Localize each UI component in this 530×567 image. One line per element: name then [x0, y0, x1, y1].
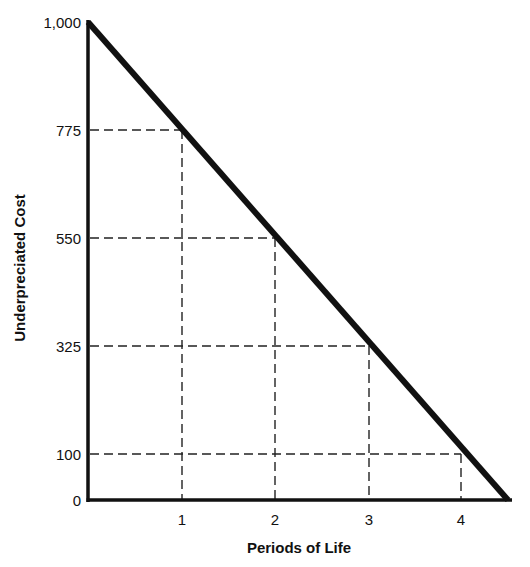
x-axis-label: Periods of Life: [247, 539, 351, 556]
y-tick-label: 550: [56, 230, 81, 247]
y-tick-label: 325: [56, 338, 81, 355]
x-tick-label: 4: [457, 511, 465, 528]
y-axis-label: Underpreciated Cost: [11, 194, 28, 342]
x-tick-label: 2: [271, 511, 279, 528]
y-tick-label: 0: [73, 492, 81, 509]
x-tick-label: 3: [365, 511, 373, 528]
depreciation-line: [88, 22, 508, 500]
y-tick-label: 1,000: [43, 14, 81, 31]
y-tick-label: 100: [56, 446, 81, 463]
chart: 1,000 775 550 325 100 0 1 2 3 4 Periods …: [0, 0, 530, 567]
x-tick-label: 1: [178, 511, 186, 528]
y-tick-label: 775: [56, 122, 81, 139]
dashed-guides: [90, 130, 461, 500]
